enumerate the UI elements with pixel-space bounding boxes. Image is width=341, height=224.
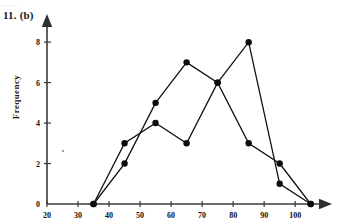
series-data-point [121,140,127,146]
series-layer [90,39,314,207]
y-axis-ticks: 02468 [36,38,51,209]
series-data-point [245,140,251,146]
series-data-point [214,79,220,85]
x-tick-label: 80 [229,211,237,220]
y-tick-label: 6 [36,79,40,88]
x-tick-label: 60 [167,211,175,220]
x-tick-label: 40 [105,211,113,220]
series-data-point [152,100,158,106]
y-axis: 02468 [36,14,52,209]
y-tick-label: 8 [36,38,40,47]
series-data-point [276,160,282,166]
series-data-point [121,160,127,166]
series-data-point [90,201,96,207]
x-tick-label: 20 [43,211,51,220]
y-axis-arrowhead [42,14,52,27]
y-tick-label: 0 [36,200,40,209]
x-tick-label: 50 [136,211,144,220]
x-axis: 2030405060708090100 [43,199,332,220]
y-tick-label: 4 [36,119,40,128]
series-data-point [183,59,189,65]
x-tick-label: 70 [198,211,206,220]
y-tick-label: 2 [36,160,40,169]
series-data-point [245,39,251,45]
x-tick-label: 90 [260,211,268,220]
series-data-point [183,140,189,146]
scan-speck [62,150,64,152]
series-data-point [307,201,313,207]
x-axis-arrowhead [319,199,332,209]
series-data-point [276,181,282,187]
x-tick-label: 30 [74,211,82,220]
figure-root: . . . . . . 11. (b) Frequency 02468 2030… [0,0,341,224]
x-tick-label: 100 [289,211,301,220]
series-polyline [94,42,311,204]
series-data-point [152,120,158,126]
frequency-polygon-chart: 02468 2030405060708090100 [0,0,341,224]
data-series [90,39,314,207]
